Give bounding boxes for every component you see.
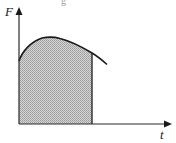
shaded-impulse-area: [19, 37, 92, 124]
diagram-canvas: [0, 0, 176, 143]
y-axis-label: F: [5, 5, 13, 18]
x-axis-arrow-icon: [164, 121, 172, 128]
force-time-diagram: g F t: [0, 0, 176, 143]
cut-off-caption: g: [61, 0, 66, 6]
x-axis-label: t: [160, 128, 164, 141]
y-axis-arrow-icon: [16, 7, 23, 15]
